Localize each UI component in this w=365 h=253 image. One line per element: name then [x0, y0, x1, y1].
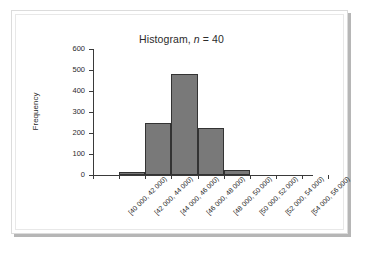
- y-axis-tick: 300: [89, 112, 93, 113]
- y-axis-tick: 500: [89, 70, 93, 71]
- chart-title-prefix: Histogram,: [139, 33, 194, 45]
- y-axis-tick: 100: [89, 154, 93, 155]
- y-axis-tick-label: 300: [72, 107, 85, 116]
- plot-area: 0100200300400500600: [93, 49, 302, 175]
- y-axis-tick: 200: [89, 133, 93, 134]
- histogram-bar: [171, 74, 197, 175]
- figure-frame: Histogram, n = 40 Frequency 010020030040…: [11, 10, 348, 234]
- x-axis-tick-labels: [40 000, 42 000)[42 000, 44 000)[44 000,…: [93, 175, 333, 233]
- histogram-bar: [145, 123, 171, 176]
- y-axis-tick-label: 0: [81, 170, 85, 179]
- figure-inner-border: Histogram, n = 40 Frequency 010020030040…: [15, 14, 344, 230]
- histogram-bar: [198, 128, 224, 175]
- y-axis-tick: 600: [89, 49, 93, 50]
- y-axis-tick-label: 100: [72, 149, 85, 158]
- chart-title: Histogram, n = 40: [16, 33, 347, 45]
- y-axis-tick-label: 600: [72, 44, 85, 53]
- y-axis-tick-label: 500: [72, 65, 85, 74]
- y-axis-tick: 400: [89, 91, 93, 92]
- y-axis-tick-label: 200: [72, 128, 85, 137]
- y-axis-title: Frequency: [31, 72, 40, 152]
- y-axis-line: [93, 49, 94, 176]
- histogram-chart: Histogram, n = 40 Frequency 010020030040…: [16, 15, 347, 233]
- y-axis-tick-label: 400: [72, 86, 85, 95]
- chart-title-suffix: = 40: [200, 33, 224, 45]
